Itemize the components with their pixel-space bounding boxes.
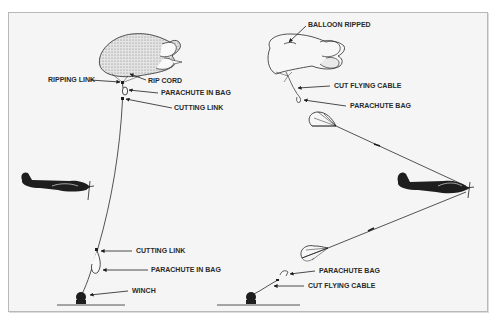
balloon-intact-icon <box>99 34 182 82</box>
svg-text:PARACHUTE IN BAG: PARACHUTE IN BAG <box>151 266 221 273</box>
svg-text:PARACHUTE BAG: PARACHUTE BAG <box>319 267 380 274</box>
ripping-link-top-icon <box>121 81 124 84</box>
parachute-upper-icon <box>309 112 336 126</box>
label-winch: WINCH <box>90 287 156 295</box>
svg-text:PARACHUTE BAG: PARACHUTE BAG <box>350 102 411 109</box>
svg-text:PARACHUTE IN BAG: PARACHUTE IN BAG <box>161 89 231 96</box>
aircraft-right-icon <box>398 172 474 198</box>
svg-text:WINCH: WINCH <box>132 287 156 294</box>
winch-icon <box>76 292 86 304</box>
right-panel: BALLOON RIPPED CUT FLYING CABLE PARACHUT… <box>217 21 474 305</box>
parachute-in-bag-bottom-icon <box>91 251 100 273</box>
cutting-link-bottom-icon <box>95 248 98 251</box>
svg-text:RIP CORD: RIP CORD <box>148 77 182 84</box>
label-cutting-link-bottom: CUTTING LINK <box>101 247 185 254</box>
left-panel: RIPPING LINK RIP CORD PARACHUTE IN BAG C… <box>21 34 231 305</box>
label-ripping-link: RIPPING LINK <box>48 76 120 83</box>
svg-text:CUTTING LINK: CUTTING LINK <box>174 104 223 111</box>
aircraft-left-icon <box>21 172 94 200</box>
parachute-bag-bottom-icon <box>280 271 288 276</box>
svg-text:CUT FLYING CABLE: CUT FLYING CABLE <box>334 82 402 89</box>
label-parachute-in-bag-bottom: PARACHUTE IN BAG <box>103 266 221 273</box>
cutting-link-top-icon <box>121 97 124 100</box>
label-cut-flying-cable-bottom: CUT FLYING CABLE <box>274 282 376 289</box>
svg-text:BALLOON RIPPED: BALLOON RIPPED <box>308 21 371 28</box>
svg-text:RIPPING LINK: RIPPING LINK <box>48 76 95 83</box>
parachute-bag-top-icon <box>296 92 301 103</box>
label-cutting-link-top: CUTTING LINK <box>126 99 223 111</box>
barrage-balloon-diagram: RIPPING LINK RIP CORD PARACHUTE IN BAG C… <box>0 0 496 320</box>
label-parachute-in-bag-top: PARACHUTE IN BAG <box>129 89 231 96</box>
balloon-ripped-icon <box>268 34 345 82</box>
label-cut-flying-cable-top: CUT FLYING CABLE <box>298 82 402 89</box>
svg-text:CUT FLYING CABLE: CUT FLYING CABLE <box>308 282 376 289</box>
label-parachute-bag-bottom: PARACHUTE BAG <box>290 267 380 274</box>
label-parachute-bag-top: PARACHUTE BAG <box>304 100 411 109</box>
winch-right-icon <box>246 292 256 304</box>
svg-text:CUTTING LINK: CUTTING LINK <box>136 247 185 254</box>
parachute-in-bag-top-icon <box>122 87 127 95</box>
diagram-stage: RIPPING LINK RIP CORD PARACHUTE IN BAG C… <box>0 0 496 320</box>
cable-lower <box>328 192 466 248</box>
parachute-lower-icon <box>301 246 328 261</box>
